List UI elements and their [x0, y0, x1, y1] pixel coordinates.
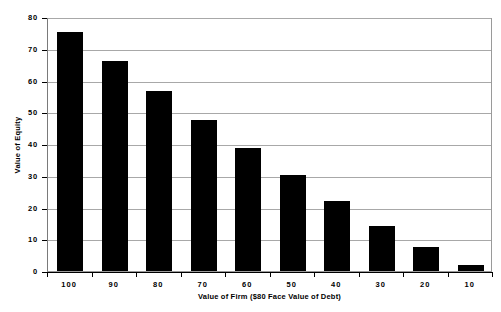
y-axis-tick-label: 20 [18, 205, 38, 213]
x-axis-tick-label: 60 [225, 280, 270, 290]
bar[interactable] [235, 148, 261, 271]
bar-slot [404, 19, 449, 271]
x-axis-tick-labels: 100908070605040302010 [47, 280, 492, 292]
y-axis-tick-label: 60 [18, 78, 38, 86]
x-axis-tick-mark [448, 273, 449, 277]
bar[interactable] [146, 91, 172, 271]
bar-slot [93, 19, 138, 271]
bar-slot [48, 19, 93, 271]
x-axis-tick-label: 100 [47, 280, 92, 290]
x-axis-tick-mark [47, 273, 48, 277]
y-axis-tick-label: 0 [18, 268, 38, 276]
x-axis-tick-label: 80 [136, 280, 181, 290]
x-axis-tick-mark [314, 273, 315, 277]
y-axis-tick-label: 10 [18, 236, 38, 244]
bar[interactable] [324, 201, 350, 271]
bar[interactable] [102, 61, 128, 271]
x-axis-tick-mark [181, 273, 182, 277]
x-axis-tick-mark [492, 273, 493, 277]
x-axis-tick-mark [403, 273, 404, 277]
bar[interactable] [280, 175, 306, 271]
bar[interactable] [191, 120, 217, 271]
bar[interactable] [369, 226, 395, 271]
x-axis-tick-label: 20 [403, 280, 448, 290]
bar-slot [226, 19, 271, 271]
y-axis-tick-label: 50 [18, 109, 38, 117]
x-axis-tick-mark [225, 273, 226, 277]
x-axis-tick-label: 40 [314, 280, 359, 290]
bar-chart: Value of Equity 01020304050607080 100908… [0, 0, 501, 312]
bars-container [48, 19, 491, 271]
x-axis-tick-mark [270, 273, 271, 277]
bar-slot [360, 19, 405, 271]
y-axis-tick-label: 70 [18, 46, 38, 54]
x-axis-tick-label: 10 [448, 280, 493, 290]
x-axis-tick-mark [92, 273, 93, 277]
bar-slot [271, 19, 316, 271]
x-axis-tick-marks [47, 273, 492, 278]
plot-area [47, 18, 492, 272]
bar-slot [449, 19, 494, 271]
y-axis-tick-label: 40 [18, 141, 38, 149]
x-axis-tick-mark [359, 273, 360, 277]
bar-slot [182, 19, 227, 271]
x-axis-tick-mark [136, 273, 137, 277]
x-axis-tick-label: 30 [359, 280, 404, 290]
bar[interactable] [458, 265, 484, 271]
x-axis-tick-label: 70 [181, 280, 226, 290]
bar[interactable] [413, 247, 439, 271]
y-axis-tick-labels: 01020304050607080 [18, 0, 38, 312]
y-axis-tick-label: 80 [18, 14, 38, 22]
x-axis-title: Value of Firm ($80 Face Value of Debt) [47, 292, 492, 301]
bar-slot [137, 19, 182, 271]
x-axis-tick-label: 90 [92, 280, 137, 290]
bar-slot [315, 19, 360, 271]
x-axis-tick-label: 50 [270, 280, 315, 290]
bar[interactable] [57, 32, 83, 271]
y-axis-tick-label: 30 [18, 173, 38, 181]
